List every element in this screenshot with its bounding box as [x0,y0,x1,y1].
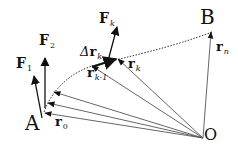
label-Fk-sub: k [110,19,115,28]
label-rk-main: r [128,56,135,71]
label-rk1-main: r [87,65,94,80]
point-label-A: A [25,113,39,133]
vector-Fk [108,27,117,61]
label-r0-sub: 0 [63,122,68,131]
label-F1-sub: 1 [27,64,32,73]
label-Fk-main: F [99,10,109,26]
label-r0-main: r [55,114,62,129]
label-F2-main: F [39,32,49,48]
point-label-B: B [200,7,215,27]
label-delta-r-k: Δrk [80,45,102,61]
label-rk-sub: k [136,64,141,73]
vector-r-mid-2 [54,92,203,138]
label-r-k-minus-1: rk-1 [87,66,107,82]
label-F1: F1 [16,56,32,73]
point-label-O: O [204,127,217,143]
label-F1-main: F [16,55,26,71]
vector-r-mid-1 [48,103,203,138]
vector-r0 [45,113,203,138]
label-r-k: rk [128,57,141,73]
label-delta-r-main: r [89,44,96,59]
label-Fk: Fk [99,11,115,28]
vector-r-n [203,32,211,138]
label-F2: F2 [39,33,55,50]
work-diagram: A B O F1 F2 Fk Δrk rk-1 rk r0 rn [0,0,238,152]
label-r-n: rn [216,40,229,56]
vector-r-k-minus-1 [92,66,203,138]
label-rn-sub: n [224,47,229,56]
label-rk1-sub: k-1 [95,73,108,82]
label-r-0: r0 [55,115,68,131]
label-rn-main: r [216,39,223,54]
position-vectors [45,32,211,138]
label-delta-r-sub: k [97,52,102,61]
label-F2-sub: 2 [50,41,55,50]
label-delta-symbol: Δ [80,44,89,59]
